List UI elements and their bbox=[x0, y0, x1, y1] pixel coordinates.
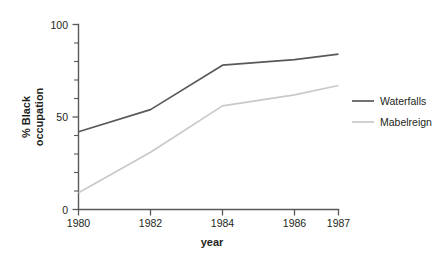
legend-label-waterfalls: Waterfalls bbox=[380, 95, 426, 107]
x-tick-label-1984: 1984 bbox=[211, 217, 235, 229]
line-chart: 100 50 0 1980 1982 1984 1986 1987 year %… bbox=[0, 0, 438, 263]
y-tick-label-0: 0 bbox=[62, 204, 68, 216]
x-tick-label-1986: 1986 bbox=[283, 217, 307, 229]
chart-axes bbox=[79, 25, 339, 210]
x-axis-title: year bbox=[201, 236, 224, 248]
y-axis-major-ticks bbox=[73, 25, 79, 210]
chart-legend: Waterfalls Mabelreign bbox=[352, 95, 432, 128]
y-axis-title-line2: occupation bbox=[33, 87, 45, 146]
y-tick-label-50: 50 bbox=[56, 111, 68, 123]
x-axis-ticks bbox=[79, 210, 339, 216]
x-tick-label-1982: 1982 bbox=[139, 217, 163, 229]
y-axis-title-line1: % Black bbox=[20, 95, 32, 138]
x-tick-label-1987: 1987 bbox=[327, 217, 351, 229]
chart-figure: 100 50 0 1980 1982 1984 1986 1987 year %… bbox=[0, 0, 438, 263]
x-tick-label-1980: 1980 bbox=[67, 217, 91, 229]
legend-label-mabelreign: Mabelreign bbox=[380, 116, 432, 128]
y-tick-label-100: 100 bbox=[50, 19, 68, 31]
series-line-mabelreign bbox=[79, 86, 339, 193]
